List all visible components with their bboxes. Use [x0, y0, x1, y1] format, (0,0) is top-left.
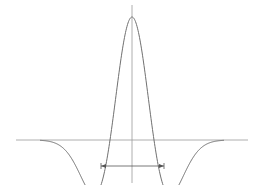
lobe-width-marker — [101, 163, 164, 169]
wavelet-diagram — [0, 0, 261, 185]
arrow-left-icon — [101, 164, 106, 168]
arrow-right-icon — [159, 164, 164, 168]
